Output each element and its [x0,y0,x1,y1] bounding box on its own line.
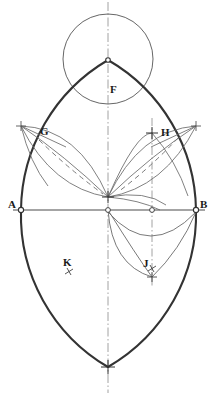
arch-lower-left [21,210,108,367]
label-J: J [143,258,149,269]
point-apex-marker [106,58,111,63]
right-spur-upper [151,126,196,147]
geometry-canvas [0,0,218,395]
point-A-marker [18,207,23,212]
left-petal-upper-arc [21,126,108,197]
K-tick-mark [65,268,73,275]
bottom-vertex-cross [101,360,115,374]
arch-lower-right [108,210,196,367]
right-cross-arc-a [108,133,152,197]
H-inner-cross [146,127,158,139]
G-tip-cross [16,121,26,131]
label-F: F [110,84,117,95]
left-dashed-chord [39,140,103,194]
left-wing-arc [21,126,108,197]
geometry-diagram: A B F G H J K [0,0,218,395]
label-G: G [40,126,49,137]
left-petal-lower-arc [21,126,108,197]
J-arc-cap [152,212,196,277]
point-midright-marker [150,208,155,213]
point-center-marker [106,208,111,213]
label-B: B [200,199,207,210]
H-tip-cross [191,121,201,131]
label-K: K [63,257,72,268]
left-petal-group [21,126,108,197]
label-H: H [161,127,170,138]
right-small-arc [108,195,166,205]
point-B-marker [193,207,198,212]
label-A: A [8,199,16,210]
